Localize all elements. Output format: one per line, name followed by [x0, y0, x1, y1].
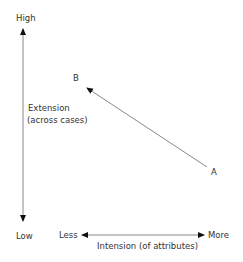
x-axis-less-label: Less — [59, 230, 78, 240]
y-axis-title-line2: (across cases) — [27, 115, 88, 125]
y-axis-low-label: Low — [16, 231, 33, 241]
y-axis-title-line1: Extension — [28, 103, 70, 113]
a-to-b-arrow — [87, 88, 207, 167]
x-axis-more-label: More — [208, 230, 229, 240]
x-axis-title: Intension (of attributes) — [97, 241, 198, 251]
diagram-canvas — [0, 0, 243, 262]
y-axis-high-label: High — [16, 13, 36, 23]
point-b-label: B — [73, 73, 79, 83]
point-a-label: A — [211, 167, 217, 177]
